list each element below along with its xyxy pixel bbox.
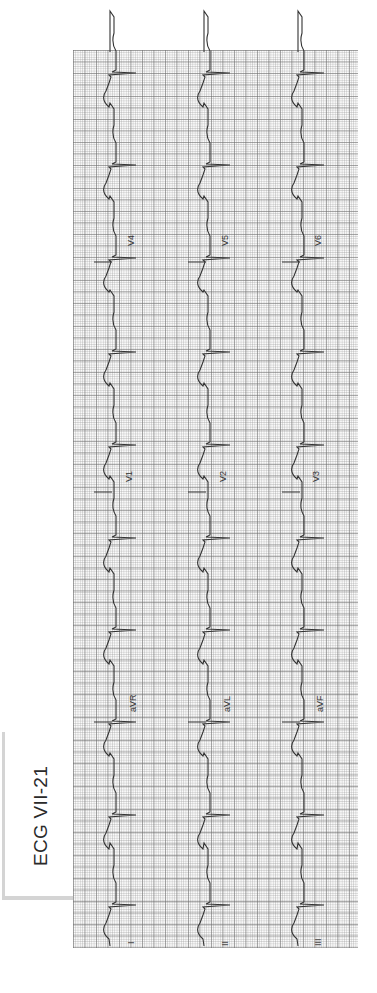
lead-label-avr: aVR: [128, 694, 138, 712]
lead-label-avf: aVF: [315, 695, 325, 712]
lead-label-v5: V5: [220, 235, 230, 246]
lead-label-v2: V2: [218, 471, 228, 482]
lead-label-v3: V3: [311, 471, 321, 482]
lead-label-ii: II: [220, 941, 230, 946]
ecg-traces: [0, 0, 377, 993]
lead-label-v6: V6: [313, 235, 323, 246]
lead-label-v4: V4: [126, 235, 136, 246]
lead-label-i: I: [126, 941, 136, 944]
lead-label-iii: III: [313, 938, 323, 946]
lead-label-v1: V1: [124, 471, 134, 482]
lead-label-avl: aVL: [222, 696, 232, 712]
